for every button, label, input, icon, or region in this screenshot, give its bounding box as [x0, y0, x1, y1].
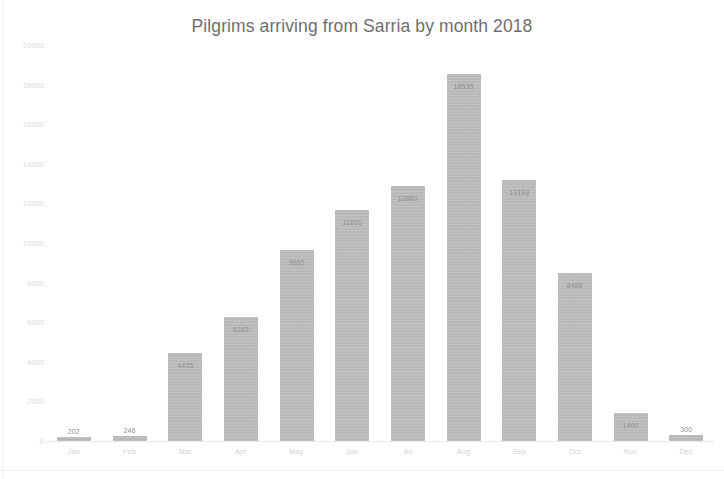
bar-slot: 300: [669, 45, 703, 441]
y-axis-tick-label: 8000: [10, 278, 44, 287]
y-axis-tick-label: 20000: [10, 41, 44, 50]
x-axis-tick-label: Aug: [436, 447, 492, 456]
bar-value-label: 4435: [168, 362, 202, 369]
bar-value-label: 18535: [447, 83, 481, 90]
bar[interactable]: 1400: [614, 413, 648, 441]
bar[interactable]: 202: [57, 437, 91, 441]
x-axis-tick-label: May: [269, 447, 325, 456]
bar-value-label: 1400: [614, 422, 648, 429]
y-axis-tick-label: 0: [10, 437, 44, 446]
x-axis-tick-label: Apr: [213, 447, 269, 456]
x-axis-tick-label: Feb: [102, 447, 158, 456]
bar[interactable]: 300: [669, 435, 703, 441]
y-axis-tick-label: 18000: [10, 80, 44, 89]
bar-slot: 202: [57, 45, 91, 441]
bar-slot: 13193: [502, 45, 536, 441]
bar-value-label: 11691: [335, 219, 369, 226]
bar-slot: 246: [113, 45, 147, 441]
x-axis-tick-label: Dec: [658, 447, 714, 456]
bar[interactable]: 18535: [447, 74, 481, 441]
bar[interactable]: 12880: [391, 186, 425, 441]
plot-area: 2022464435626396651169112880185351319384…: [46, 45, 714, 441]
bar[interactable]: 11691: [335, 210, 369, 441]
x-axis: JanFebMarAprMayJunJulAugSepOctNovDec: [46, 447, 714, 463]
bar-slot: 12880: [391, 45, 425, 441]
x-axis-tick-label: Sep: [491, 447, 547, 456]
page-edge-bottom-line: [0, 470, 724, 471]
bar[interactable]: 4435: [168, 353, 202, 441]
bar-slot: 11691: [335, 45, 369, 441]
bar-value-label: 8486: [558, 282, 592, 289]
y-axis-tick-label: 10000: [10, 239, 44, 248]
bar-value-label: 300: [669, 426, 703, 433]
y-axis-tick-label: 14000: [10, 159, 44, 168]
bar[interactable]: 13193: [502, 180, 536, 441]
bar-slot: 6263: [224, 45, 258, 441]
bar-slot: 4435: [168, 45, 202, 441]
x-axis-tick-label: Oct: [547, 447, 603, 456]
bar-value-label: 12880: [391, 195, 425, 202]
bar-series: 2022464435626396651169112880185351319384…: [46, 45, 714, 441]
bar-value-label: 202: [57, 428, 91, 435]
x-axis-baseline: [46, 441, 714, 442]
y-axis: 0200040006000800010000120001400016000180…: [10, 45, 44, 441]
bar-slot: 8486: [558, 45, 592, 441]
x-axis-tick-label: Jun: [324, 447, 380, 456]
bar-slot: 1400: [614, 45, 648, 441]
page-edge-left-line: [2, 0, 3, 479]
bar-value-label: 6263: [224, 326, 258, 333]
bar[interactable]: 6263: [224, 317, 258, 441]
bar-slot: 18535: [447, 45, 481, 441]
y-axis-tick-label: 16000: [10, 120, 44, 129]
bar-value-label: 246: [113, 427, 147, 434]
y-axis-tick-label: 4000: [10, 357, 44, 366]
bar[interactable]: 246: [113, 436, 147, 441]
y-axis-tick-label: 6000: [10, 318, 44, 327]
x-axis-tick-label: Jan: [46, 447, 102, 456]
y-axis-tick-label: 2000: [10, 397, 44, 406]
bar-value-label: 13193: [502, 189, 536, 196]
bar-slot: 9665: [280, 45, 314, 441]
bar[interactable]: 9665: [280, 250, 314, 441]
x-axis-tick-label: Nov: [603, 447, 659, 456]
bar-chart: Pilgrims arriving from Sarria by month 2…: [0, 0, 724, 479]
x-axis-tick-label: Jul: [380, 447, 436, 456]
y-axis-tick-label: 12000: [10, 199, 44, 208]
bar-value-label: 9665: [280, 259, 314, 266]
bar[interactable]: 8486: [558, 273, 592, 441]
chart-title: Pilgrims arriving from Sarria by month 2…: [0, 16, 724, 37]
x-axis-tick-label: Mar: [157, 447, 213, 456]
